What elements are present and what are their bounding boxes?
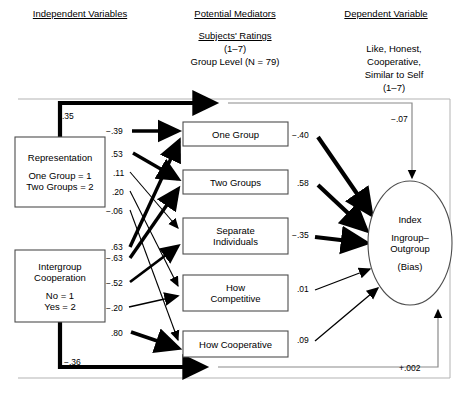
dependent-subtitle-line1: Like, Honest, — [366, 43, 421, 54]
intergroup-cooperation-title-1: Intergroup — [38, 261, 81, 272]
one-group-line-1: One Group — [212, 129, 259, 140]
dependent-subtitle-line4: (1–7) — [383, 82, 405, 93]
coefficient-representation-separate-individuals: .11 — [113, 168, 124, 178]
path-how-competitive-to-index — [315, 269, 370, 290]
header-independent-variables: Independent Variables — [33, 8, 127, 19]
separate-individuals-line-2: Individuals — [213, 236, 258, 247]
how-competitive-line-2: Competitive — [210, 293, 260, 304]
coefficient-how-cooperative-index: .09 — [297, 335, 309, 345]
coefficient-representation-how-cooperative: −.06 — [106, 206, 123, 216]
mediator-subtitle-line3: Group Level (N = 79) — [191, 56, 280, 67]
coefficient-direct-top: .35 — [62, 111, 74, 121]
node-label-one-group: One Group — [183, 122, 288, 146]
coefficient-intergroup-separate-individuals: −.52 — [106, 278, 123, 288]
representation-level-2: Two Groups = 2 — [26, 181, 93, 192]
header-dependent-variable: Dependent Variable — [344, 8, 427, 19]
node-label-index-ingroup-outgroup: Index Ingroup– Outgroup (Bias) — [368, 181, 452, 305]
header-potential-mediators: Potential Mediators — [194, 8, 275, 19]
mediator-subtitle-line2: (1–7) — [224, 43, 246, 54]
node-label-intergroup-cooperation: Intergroup Cooperation No = 1 Yes = 2 — [15, 250, 105, 322]
how-cooperative-line-1: How Cooperative — [199, 339, 272, 350]
node-label-two-groups: Two Groups — [183, 170, 288, 194]
index-line-3: Outgroup — [390, 243, 430, 254]
path-representation-to-how-competitive — [130, 191, 178, 286]
intergroup-cooperation-title-2: Cooperation — [34, 272, 86, 283]
coefficient-one-group-index: −.40 — [292, 130, 309, 140]
node-label-how-competitive: How Competitive — [183, 275, 288, 311]
index-line-4: (Bias) — [398, 261, 423, 272]
path-separate-individuals-to-index — [315, 237, 366, 243]
coefficient-direct-bottom: −.36 — [64, 357, 81, 367]
node-label-how-cooperative: How Cooperative — [183, 331, 288, 357]
coefficient-representation-two-groups: .53 — [111, 149, 123, 159]
path-diagram: Independent Variables Potential Mediator… — [0, 0, 468, 401]
coefficient-separate-individuals-index: −.35 — [292, 230, 309, 240]
intergroup-cooperation-level-2: Yes = 2 — [44, 301, 76, 312]
coefficient-intergroup-one-group: .63 — [111, 242, 123, 252]
path-one-group-to-index — [318, 137, 371, 214]
representation-title: Representation — [28, 152, 92, 163]
coefficient-intergroup-how-cooperative: .80 — [111, 328, 123, 338]
index-line-1: Index — [398, 214, 421, 225]
index-line-2: Ingroup– — [391, 232, 429, 243]
coefficient-intergroup-how-competitive: −.20 — [106, 303, 123, 313]
path-intergroup-cooperation-to-how-competitive — [129, 296, 178, 307]
coefficient-how-competitive-index: .01 — [297, 284, 309, 294]
how-competitive-line-1: How — [226, 282, 245, 293]
path-two-groups-to-index — [318, 185, 366, 230]
dependent-subtitle-line2: Cooperative, — [367, 56, 421, 67]
coefficient-two-groups-index: .58 — [297, 178, 309, 188]
separate-individuals-line-1: Separate — [216, 225, 255, 236]
path-intergroup-cooperation-to-separate-individuals — [130, 246, 178, 282]
two-groups-line-1: Two Groups — [210, 177, 261, 188]
representation-level-1: One Group = 1 — [28, 170, 91, 181]
intergroup-cooperation-level-1: No = 1 — [46, 290, 74, 301]
coefficient-intergroup-two-groups: −.63 — [106, 253, 123, 263]
coefficient-total-bottom: +.002 — [399, 363, 421, 373]
path-intergroup-cooperation-to-how-cooperative — [131, 332, 178, 348]
coefficient-representation-one-group: −.39 — [106, 126, 123, 136]
coefficient-representation-how-competitive: .20 — [112, 187, 124, 197]
dependent-subtitle-line3: Similar to Self — [365, 69, 424, 80]
node-label-representation: Representation One Group = 1 Two Groups … — [15, 137, 105, 207]
coefficient-total-top: −.07 — [391, 114, 408, 124]
node-label-separate-individuals: Separate Individuals — [183, 218, 288, 254]
mediator-subtitle-line1: Subjects' Ratings — [198, 30, 271, 41]
